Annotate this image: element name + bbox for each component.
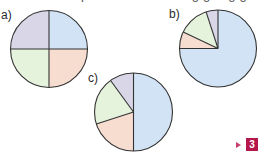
exercise-reference[interactable]: 3 [236,138,258,151]
pie-slice-blue [134,73,173,151]
arrow-right-icon [236,142,241,148]
pie-chart-c [0,0,264,156]
exercise-number-badge: 3 [246,138,258,151]
